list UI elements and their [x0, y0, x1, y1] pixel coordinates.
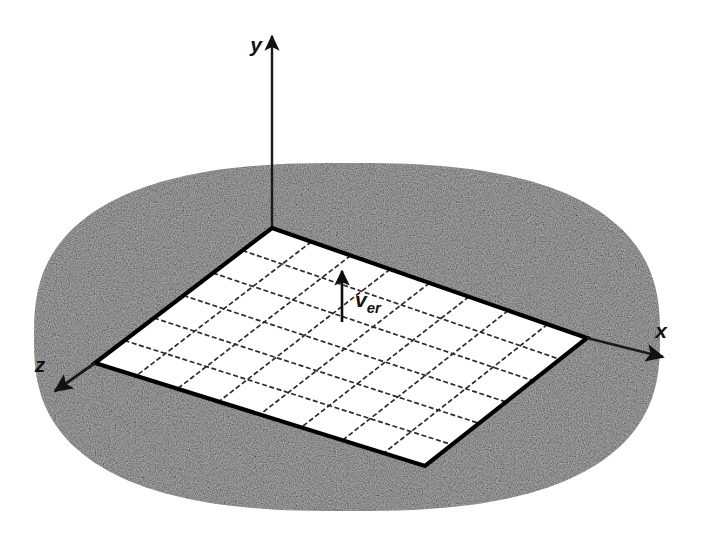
axis-y-label: y — [249, 33, 263, 56]
velocity-vector-label-subscript: er — [367, 299, 382, 316]
diagram-canvas: y x z ver — [0, 0, 712, 542]
figure-root: y x z ver — [0, 0, 712, 542]
axis-x-label: x — [654, 319, 668, 342]
axis-z-label: z — [34, 353, 46, 376]
